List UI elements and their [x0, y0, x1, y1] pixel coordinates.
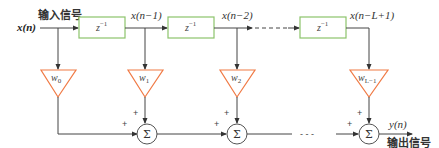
plus-sign: +: [347, 119, 352, 129]
tap-signal-3: x(n−L+1): [349, 9, 395, 22]
input-label: 输入信号: [38, 8, 82, 22]
plus-sign: +: [133, 108, 138, 118]
tap-signal-2: x(n−2): [221, 9, 253, 22]
summer-symbol-2: Σ: [233, 128, 241, 141]
plus-sign: +: [357, 108, 362, 118]
summer-symbol-1: Σ: [143, 128, 151, 141]
tap-signal-1: x(n−1): [130, 9, 162, 22]
plus-sign: +: [224, 108, 229, 118]
plus-sign: +: [122, 119, 127, 129]
plus-sign: +: [214, 119, 219, 129]
input-symbol: x(n): [16, 21, 36, 34]
output-label: 输出信号: [387, 136, 431, 148]
ellipsis: - - -: [300, 129, 314, 139]
output-symbol: y(n): [388, 118, 407, 131]
summer-symbol-3: Σ: [365, 128, 373, 141]
fir-filter-diagram: x(n) 输入信号 z−1 x(n−1) z−1 x(n−2) z−1 x(n−…: [0, 0, 439, 148]
